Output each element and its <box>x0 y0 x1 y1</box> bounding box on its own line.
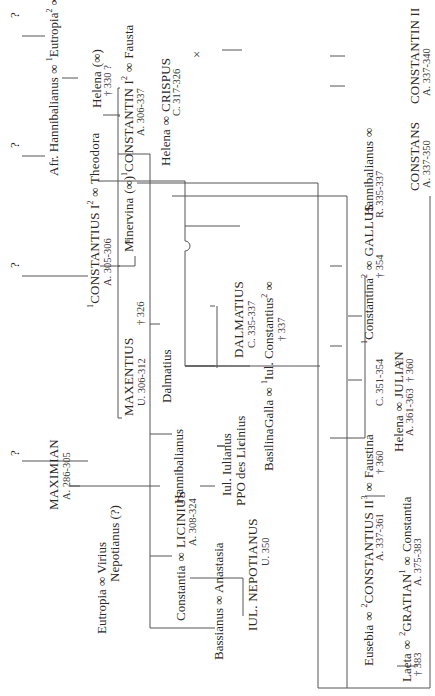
maxentius-reign: U. 306-312 <box>137 358 148 406</box>
person-bassianus: Bassianus ∞ Anastasia <box>212 542 225 660</box>
person-afr-hannibalianus: Afr. Hannibalianus ∞ 1Eutropia2 ∞ <box>47 0 60 176</box>
person-virius-nepotianus: Nepotianus (?) <box>108 505 121 582</box>
unknown-parent-constantius: ? <box>8 142 21 148</box>
person-anastasia: Anastasia <box>211 542 226 593</box>
person-fausta: Fausta <box>121 25 136 59</box>
helena-julian-death: † 360 <box>405 358 416 382</box>
person-maximian: MAXIMIAN <box>47 439 60 510</box>
dalmatius-caesar-reign: C. 335-337 <box>247 301 258 348</box>
person-constantin-ii: CONSTANTIN II <box>408 7 421 104</box>
constantius-ii-reign: A. 337-361 <box>375 513 386 561</box>
fausta-death: † 326 <box>136 301 147 325</box>
person-iul-nepotianus: IUL. NEPOTIANUS <box>246 518 259 631</box>
gallus-reign: C. 351-354 <box>375 359 386 406</box>
person-dalmatius: Dalmatius <box>160 350 173 403</box>
unknown-parent-afr-hannibalianus: ? <box>8 262 21 268</box>
maximian-reign: A. 286-305 <box>62 452 73 500</box>
helena-death: † 330 ? <box>103 65 114 96</box>
person-iul-iulianus: Iul. Iulianus <box>220 433 233 496</box>
licinius-reign: A. 308-324 <box>188 498 199 546</box>
person-dalmatius-caesar: DALMATIUS <box>232 281 245 358</box>
person-maxentius: MAXENTIUS <box>122 338 135 416</box>
constantin-ii-reign: A. 337-340 <box>422 48 433 96</box>
constantin-i-reign: A. 306-337 <box>136 88 147 136</box>
eusebia-death: † 360 <box>375 450 386 474</box>
person-licinius: LICINIUS <box>173 491 188 548</box>
constantina-death: † 354 <box>375 254 386 278</box>
person-constans: CONSTANS <box>408 122 421 191</box>
person-basilina: Basilina <box>262 428 275 471</box>
constans-reign: A. 337-350 <box>422 140 433 188</box>
julian-reign: A. 361-363 <box>405 388 416 436</box>
person-gallus: GALLUS <box>361 204 376 256</box>
person-iul-constantius: Iul. Constantius <box>261 298 276 380</box>
constantia-death: † 383 <box>413 652 424 676</box>
iul-iulianus-title: PPO des Licinius <box>234 416 247 506</box>
person-minervina: Minervina (∞)1CONSTANTIN I2 ∞ Fausta <box>120 25 136 252</box>
crispus-reign: C. 317-326 <box>172 69 183 116</box>
iul-constantius-death: † 337 <box>277 317 288 341</box>
unknown-parent-helena: ? <box>8 12 21 18</box>
person-galla: Galla ∞ 1Iul. Constantius2 ∞ <box>262 281 275 428</box>
family-tree-diagram: ? ? ? ? Helena (∞) † 330 ? 1CONSTANTIUS … <box>0 0 435 696</box>
gratian-reign: A. 375-383 <box>413 538 424 586</box>
person-constantin-i: CONSTANTIN I <box>121 80 136 172</box>
hannibalianus-rex-reign: R. 335-337 <box>375 171 386 218</box>
unknown-parent-eutropia: ? <box>8 450 21 456</box>
person-theodora: Theodora <box>87 133 102 184</box>
iul-nepotianus-reign: U. 350 <box>261 537 272 566</box>
person-constantius-i: 1CONSTANTIUS I2 ∞ Theodora <box>88 133 101 308</box>
person-eutropia: Eutropia <box>46 13 61 58</box>
person-constantia: Constantia ∞ LICINIUS <box>172 491 188 621</box>
crispus-child-marker: × <box>190 51 203 58</box>
constantius-i-reign: A. 305-306 <box>103 238 114 286</box>
